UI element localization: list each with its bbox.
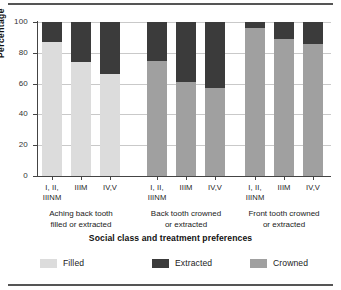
plot-area <box>38 22 331 176</box>
category-label-line1: IV,V <box>292 183 334 193</box>
x-axis-group-label: Front tooth crownedor extracted <box>232 209 336 230</box>
bar-segment-extracted <box>147 22 167 61</box>
y-axis-tick-label: 100 <box>4 17 28 26</box>
x-axis-tick <box>81 176 82 180</box>
bar-segment-crowned <box>274 39 294 176</box>
bar-stack[interactable] <box>100 22 120 176</box>
bar-stack[interactable] <box>42 22 62 176</box>
legend-item-filled[interactable]: Filled <box>40 258 84 268</box>
category-label-line2: IIINM <box>136 193 178 203</box>
bar-segment-filled <box>42 42 62 176</box>
bar-stack[interactable] <box>245 22 265 176</box>
x-axis-category-label: IV,V <box>194 183 236 193</box>
x-axis-tick <box>186 176 187 180</box>
bar-stack[interactable] <box>205 22 225 176</box>
y-axis-tick-label: 0 <box>4 171 28 180</box>
category-label-line1: IV,V <box>194 183 236 193</box>
chart-legend: FilledExtractedCrowned <box>0 258 341 274</box>
group-label-line1: Aching back tooth <box>29 209 133 220</box>
bar-stack[interactable] <box>71 22 91 176</box>
bar-segment-extracted <box>100 22 120 74</box>
legend-label-extracted: Extracted <box>175 258 212 268</box>
legend-swatch-extracted <box>152 259 169 268</box>
bar-stack[interactable] <box>274 22 294 176</box>
group-label-line1: Back tooth crowned <box>134 209 238 220</box>
bar-segment-crowned <box>176 82 196 176</box>
y-axis-line <box>37 21 38 177</box>
legend-item-crowned[interactable]: Crowned <box>250 258 308 268</box>
y-axis-tick <box>33 22 37 23</box>
bar-stack[interactable] <box>303 22 323 176</box>
bar-segment-extracted <box>71 22 91 62</box>
bar-segment-filled <box>100 74 120 176</box>
y-axis-tick-label: 20 <box>4 140 28 149</box>
group-label-line2: or extracted <box>232 220 336 231</box>
bar-segment-crowned <box>303 44 323 176</box>
x-axis-tick <box>313 176 314 180</box>
bar-segment-extracted <box>205 22 225 88</box>
bar-segment-extracted <box>176 22 196 82</box>
x-axis-tick <box>255 176 256 180</box>
category-label-line2: IIINM <box>234 193 276 203</box>
y-axis-tick <box>33 176 37 177</box>
bar-segment-extracted <box>274 22 294 39</box>
bar-stack[interactable] <box>176 22 196 176</box>
legend-label-filled: Filled <box>63 258 84 268</box>
legend-label-crowned: Crowned <box>273 258 308 268</box>
y-axis-tick <box>33 53 37 54</box>
bar-segment-extracted <box>303 22 323 44</box>
bar-segment-crowned <box>205 88 225 176</box>
x-axis-group-label: Back tooth crownedor extracted <box>134 209 238 230</box>
y-axis-tick-label: 40 <box>4 109 28 118</box>
x-axis-category-label: IV,V <box>89 183 131 193</box>
group-label-line2: filled or extracted <box>29 220 133 231</box>
x-axis-tick <box>215 176 216 180</box>
y-axis-tick-label: 60 <box>4 79 28 88</box>
x-axis-title: Social class and treatment preferences <box>0 233 341 243</box>
bar-segment-crowned <box>245 28 265 176</box>
x-axis-tick <box>52 176 53 180</box>
y-axis-tick <box>33 114 37 115</box>
y-axis-tick <box>33 145 37 146</box>
category-label-line2: IIINM <box>31 193 73 203</box>
y-axis-tick-label: 80 <box>4 48 28 57</box>
legend-item-extracted[interactable]: Extracted <box>152 258 212 268</box>
y-axis-tick <box>33 84 37 85</box>
legend-swatch-filled <box>40 259 57 268</box>
x-axis-tick <box>110 176 111 180</box>
x-axis-tick <box>284 176 285 180</box>
category-label-line1: IV,V <box>89 183 131 193</box>
group-label-line1: Front tooth crowned <box>232 209 336 220</box>
x-axis-group-label: Aching back toothfilled or extracted <box>29 209 133 230</box>
bar-stack[interactable] <box>147 22 167 176</box>
bar-segment-crowned <box>147 61 167 177</box>
x-axis-tick <box>157 176 158 180</box>
group-label-line2: or extracted <box>134 220 238 231</box>
stacked-bar-chart: Percentage Social class and treatment pr… <box>0 0 341 290</box>
x-axis-category-label: IV,V <box>292 183 334 193</box>
bar-segment-filled <box>71 62 91 176</box>
legend-swatch-crowned <box>250 259 267 268</box>
bar-segment-extracted <box>42 22 62 42</box>
